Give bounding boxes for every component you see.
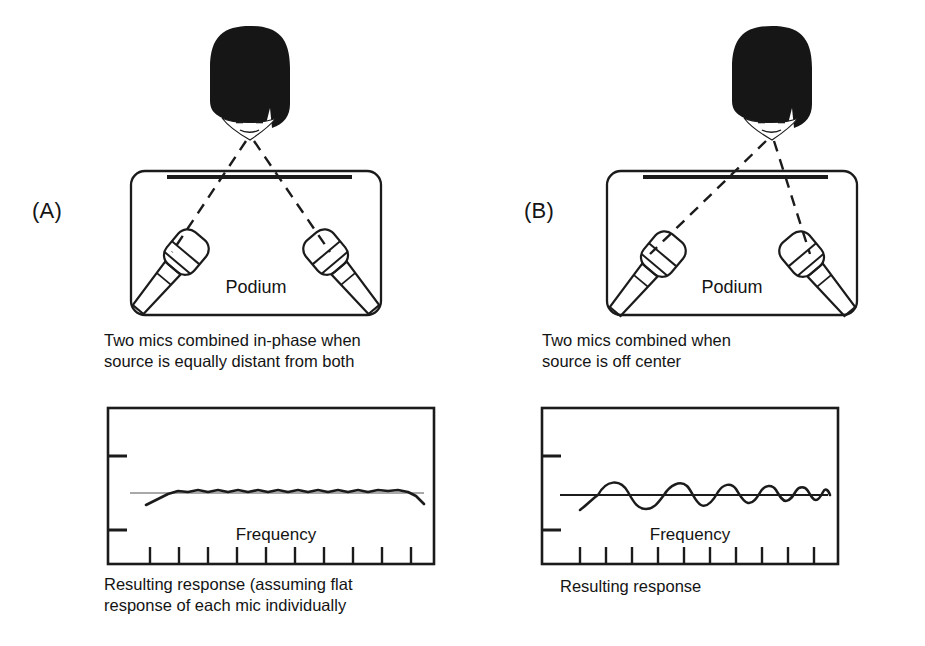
right-mic-handle	[807, 264, 857, 318]
graph-b-xlabel: Frequency	[650, 525, 731, 544]
left-microphone	[124, 224, 213, 321]
panel-b-graph-caption: Resulting response	[560, 576, 701, 597]
right-mic-handle-joint	[817, 275, 831, 287]
left-mic-handle	[130, 262, 180, 316]
sound-path-right	[254, 141, 330, 252]
left-mic-handle-joint	[634, 275, 648, 287]
right-mic-band-2	[322, 252, 348, 274]
panel-a: (A)	[0, 0, 462, 646]
right-microphone	[774, 226, 863, 323]
panel-a-graph-caption: Resulting response (assuming flat respon…	[104, 574, 353, 616]
graph-a-xlabel: Frequency	[236, 525, 317, 544]
panel-b: (B)	[462, 0, 924, 646]
right-mic-handle	[331, 262, 381, 316]
podium-label: Podium	[701, 277, 762, 297]
sound-path-left	[172, 141, 246, 252]
left-mic-band-2	[641, 254, 667, 276]
figure-root: (A)	[0, 0, 925, 646]
panel-a-scene: Podium	[0, 0, 462, 330]
panel-b-scene: Podium	[462, 0, 924, 330]
talker-head	[210, 26, 290, 140]
sound-path-right	[774, 141, 810, 254]
hair-shape	[732, 26, 812, 128]
hair-shape	[210, 26, 290, 128]
right-mic-band-2	[798, 254, 824, 276]
left-mic-band-2	[164, 252, 190, 274]
panel-a-scene-caption: Two mics combined in-phase when source i…	[104, 330, 361, 372]
podium-label: Podium	[225, 277, 286, 297]
left-microphone	[601, 226, 690, 323]
panel-b-graph: Frequency	[540, 406, 840, 566]
right-microphone	[298, 224, 387, 321]
panel-a-graph: Frequency	[106, 406, 436, 566]
left-mic-handle-joint	[157, 273, 171, 285]
sound-path-left	[650, 141, 766, 254]
left-mic-handle	[607, 264, 657, 318]
right-mic-handle-joint	[341, 273, 355, 285]
panel-b-scene-caption: Two mics combined when source is off cen…	[542, 330, 731, 372]
talker-head	[732, 26, 812, 140]
